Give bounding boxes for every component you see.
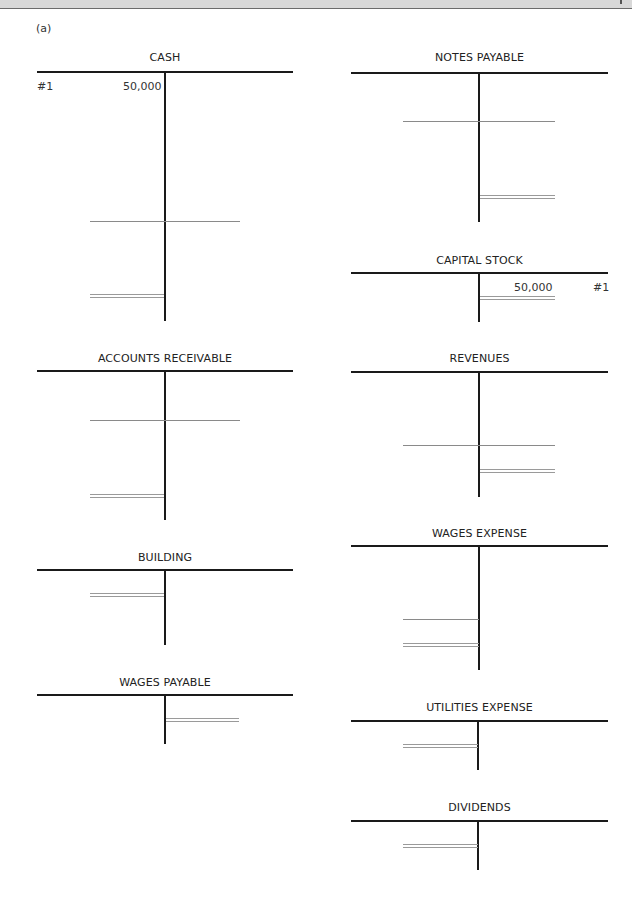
t-account-divider [478,371,480,497]
balance-double-rule [480,296,555,300]
account-title: CASH [37,51,293,65]
balance-double-rule [166,718,239,722]
header-mark [620,0,622,4]
page-header-band [0,0,632,9]
entry-debit-amount: 50,000 [123,80,162,93]
balance-double-rule [90,593,164,597]
t-account-cash: CASH #1 50,000 [37,51,293,323]
subtotal-rule [403,445,555,446]
balance-double-rule [480,195,555,199]
t-account-wages-payable: WAGES PAYABLE [37,676,293,746]
part-label: (a) [36,22,51,35]
entry-ref: #1 [37,80,53,93]
account-title: BUILDING [37,551,293,565]
t-account-capital-stock: CAPITAL STOCK 50,000 #1 [351,254,608,322]
account-title: NOTES PAYABLE [351,51,608,65]
balance-double-rule [403,643,479,647]
balance-double-rule [403,744,478,748]
entry-ref: #1 [593,281,609,294]
balance-double-rule [403,844,478,848]
subtotal-rule [403,121,555,122]
t-account-divider [478,545,480,670]
balance-double-rule [480,469,555,473]
t-account-divider [164,569,166,645]
subtotal-rule [403,619,479,620]
t-account-top-bar [351,820,608,822]
t-account-building: BUILDING [37,551,293,647]
balance-double-rule [90,494,164,498]
t-account-dividends: DIVIDENDS [351,801,608,873]
account-title: WAGES EXPENSE [351,527,608,541]
account-title: CAPITAL STOCK [351,254,608,268]
t-account-utilities-expense: UTILITIES EXPENSE [351,701,608,773]
t-account-revenues: REVENUES [351,352,608,498]
subtotal-rule [90,420,240,421]
t-account-wages-expense: WAGES EXPENSE [351,527,608,672]
account-title: WAGES PAYABLE [37,676,293,690]
entry-credit-amount: 50,000 [514,281,553,294]
t-account-notes-payable: NOTES PAYABLE [351,51,608,223]
t-account-accounts-receivable: ACCOUNTS RECEIVABLE [37,352,293,522]
t-account-divider [164,370,166,520]
account-title: ACCOUNTS RECEIVABLE [37,352,293,366]
account-title: DIVIDENDS [351,801,608,815]
t-account-divider [164,71,166,321]
balance-double-rule [90,294,164,298]
account-title: UTILITIES EXPENSE [351,701,608,715]
account-title: REVENUES [351,352,608,366]
t-account-divider [478,72,480,222]
t-account-top-bar [351,720,608,722]
subtotal-rule [90,221,240,222]
